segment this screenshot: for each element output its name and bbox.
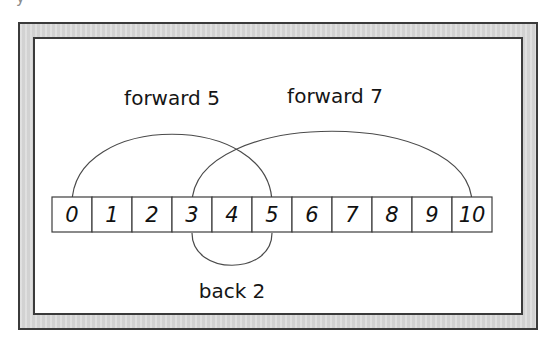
jump-arc-back-2 [192,233,272,265]
jump-arc-forward-7 [192,131,472,204]
number-cell-label: 2 [145,203,158,227]
clipped-text-fragment-glyph: y [16,0,30,6]
number-cell-label: 0 [65,203,78,227]
number-cell-4[interactable]: 4 [212,197,252,232]
jump-arc-forward-5 [72,134,272,204]
number-cell-label: 6 [305,203,318,227]
number-cell-5[interactable]: 5 [252,197,292,232]
number-cell-9[interactable]: 9 [412,197,452,232]
jump-label-back-2: back 2 [199,279,266,303]
number-cell-8[interactable]: 8 [372,197,412,232]
number-cell-label: 3 [185,203,198,227]
number-cell-label: 10 [459,203,486,227]
number-cell-3[interactable]: 3 [172,197,212,232]
jump-label-forward-7: forward 7 [287,84,383,108]
clipped-text-fragment: y [16,0,30,7]
outer-frame: 0 1 2 3 4 [18,22,538,330]
number-cell-6[interactable]: 6 [292,197,332,232]
number-cell-0[interactable]: 0 [52,197,92,232]
number-cell-7[interactable]: 7 [332,197,372,232]
number-cell-label: 9 [425,203,438,227]
number-line-diagram: 0 1 2 3 4 [35,39,523,315]
number-cell-label: 4 [225,203,238,227]
number-line: 0 1 2 3 4 [52,197,492,232]
number-cell-10[interactable]: 10 [452,197,492,232]
number-cell-label: 8 [385,203,398,227]
diagram-panel: 0 1 2 3 4 [33,37,523,315]
number-cell-1[interactable]: 1 [92,197,132,232]
jump-label-forward-5: forward 5 [124,86,220,110]
number-cell-label: 5 [265,203,278,227]
number-cell-2[interactable]: 2 [132,197,172,232]
number-cell-label: 7 [345,203,359,227]
jump-labels: forward 5 forward 7 back 2 [124,84,383,303]
number-cell-label: 1 [105,203,118,227]
